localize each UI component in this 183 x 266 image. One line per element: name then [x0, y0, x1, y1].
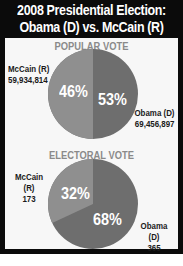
- popular-mccain-name: McCain (R): [8, 64, 49, 75]
- chart-frame: 2008 Presidential Election: Obama (D) vs…: [0, 0, 183, 254]
- electoral-mccain-legend: McCain (R) 173: [10, 172, 49, 205]
- electoral-mccain-name: McCain (R): [10, 172, 49, 194]
- electoral-obama-legend: Obama (D) 365: [135, 221, 174, 254]
- popular-obama-percent: 53%: [98, 90, 127, 110]
- electoral-obama-name: Obama (D): [135, 221, 174, 243]
- popular-mccain-percent: 46%: [59, 82, 88, 102]
- chart-title-line-2: Obama (D) vs. McCain (R): [13, 19, 170, 36]
- popular-obama-name: Obama (D): [135, 108, 175, 119]
- electoral-mccain-votes: 173: [10, 194, 49, 205]
- electoral-obama-percent: 68%: [93, 210, 122, 230]
- chart-title-line-1: 2008 Presidential Election:: [13, 2, 170, 19]
- electoral-obama-votes: 365: [135, 243, 174, 254]
- chart-panel: POPULAR VOTE 46% 53% McCain (R) 59,934,8…: [5, 38, 178, 249]
- electoral-mccain-percent: 32%: [61, 184, 90, 204]
- popular-mccain-legend: McCain (R) 59,934,814: [8, 64, 49, 86]
- popular-obama-votes: 69,456,897: [135, 119, 175, 130]
- electoral-vote-pie: [47, 158, 139, 250]
- popular-mccain-votes: 59,934,814: [8, 75, 49, 86]
- popular-obama-legend: Obama (D) 69,456,897: [135, 108, 175, 130]
- chart-title: 2008 Presidential Election: Obama (D) vs…: [13, 2, 170, 36]
